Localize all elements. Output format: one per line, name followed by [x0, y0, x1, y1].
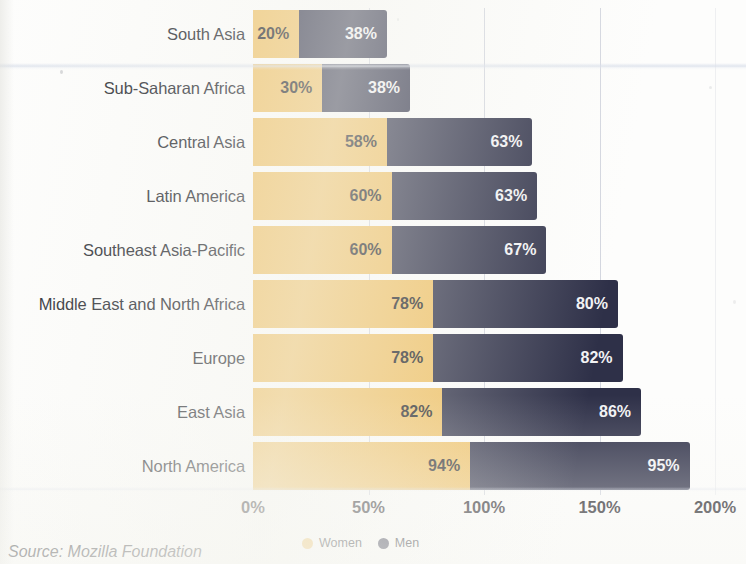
bar-value-label: 58% [345, 133, 387, 151]
bar-stack: 58%63% [253, 118, 532, 166]
bar-segment-men: 95% [470, 442, 689, 490]
legend-item-women[interactable]: Women [302, 536, 362, 550]
bar-stack: 60%63% [253, 172, 537, 220]
chart-row: Central Asia58%63% [0, 118, 746, 166]
x-axis-tick-label: 0% [241, 498, 265, 517]
category-label: Southeast Asia-Pacific [0, 226, 245, 274]
bar-segment-women: 78% [253, 334, 433, 382]
bar-value-label: 80% [576, 295, 618, 313]
bar-segment-women: 82% [253, 388, 442, 436]
bar-segment-men: 63% [392, 172, 538, 220]
bar-segment-women: 60% [253, 172, 392, 220]
chart-row: Middle East and North Africa78%80% [0, 280, 746, 328]
bar-segment-men: 67% [392, 226, 547, 274]
bar-value-label: 63% [490, 133, 532, 151]
category-label: Europe [0, 334, 245, 382]
bar-value-label: 60% [350, 187, 392, 205]
bar-value-label: 63% [495, 187, 537, 205]
bar-value-label: 82% [581, 349, 623, 367]
bar-value-label: 38% [368, 79, 410, 97]
bar-segment-women: 60% [253, 226, 392, 274]
category-label: Latin America [0, 172, 245, 220]
x-axis-tick-label: 200% [694, 498, 736, 517]
x-axis-tick-label: 50% [352, 498, 385, 517]
x-axis-tick-label: 100% [463, 498, 505, 517]
chart-row: Sub-Saharan Africa30%38% [0, 64, 746, 112]
bar-value-label: 38% [345, 25, 387, 43]
bar-value-label: 30% [280, 79, 322, 97]
bar-value-label: 78% [391, 295, 433, 313]
category-label: Sub-Saharan Africa [0, 64, 245, 112]
chart-row: South Asia20%38% [0, 10, 746, 58]
legend-item-men[interactable]: Men [378, 536, 419, 550]
chart-row: Latin America60%63% [0, 172, 746, 220]
bar-stack: 78%80% [253, 280, 618, 328]
chart-row: Europe78%82% [0, 334, 746, 382]
bar-value-label: 20% [257, 25, 299, 43]
source-note: Source: Mozilla Foundation [8, 543, 202, 561]
bar-value-label: 82% [400, 403, 442, 421]
plot-area: South Asia20%38%Sub-Saharan Africa30%38%… [0, 0, 746, 500]
bar-segment-men: 38% [322, 64, 410, 112]
category-label: Central Asia [0, 118, 245, 166]
legend-label: Women [319, 536, 362, 550]
bar-value-label: 78% [391, 349, 433, 367]
bar-segment-men: 82% [433, 334, 622, 382]
bar-stack: 30%38% [253, 64, 410, 112]
category-label: Middle East and North Africa [0, 280, 245, 328]
x-axis: 0%50%100%150%200% [0, 498, 746, 526]
bar-segment-men: 63% [387, 118, 533, 166]
bar-segment-men: 38% [299, 10, 387, 58]
chart-row: Southeast Asia-Pacific60%67% [0, 226, 746, 274]
bar-stack: 20%38% [253, 10, 387, 58]
bar-stack: 82%86% [253, 388, 641, 436]
bar-segment-men: 86% [442, 388, 641, 436]
category-label: South Asia [0, 10, 245, 58]
bar-value-label: 86% [599, 403, 641, 421]
chart-row: East Asia82%86% [0, 388, 746, 436]
bar-segment-women: 30% [253, 64, 322, 112]
legend-swatch-icon [302, 538, 313, 549]
bar-stack: 94%95% [253, 442, 690, 490]
category-label: North America [0, 442, 245, 490]
chart-row: North America94%95% [0, 442, 746, 490]
bar-segment-women: 78% [253, 280, 433, 328]
bar-value-label: 67% [504, 241, 546, 259]
bar-segment-women: 94% [253, 442, 470, 490]
chart-legend: WomenMen [302, 536, 419, 550]
x-axis-tick-label: 150% [578, 498, 620, 517]
stacked-bar-chart-figure: South Asia20%38%Sub-Saharan Africa30%38%… [0, 0, 746, 564]
bar-value-label: 94% [428, 457, 470, 475]
bar-segment-women: 58% [253, 118, 387, 166]
legend-swatch-icon [378, 538, 389, 549]
bar-value-label: 60% [350, 241, 392, 259]
bar-segment-women: 20% [253, 10, 299, 58]
bar-value-label: 95% [648, 457, 690, 475]
bar-segment-men: 80% [433, 280, 618, 328]
legend-label: Men [395, 536, 419, 550]
bar-stack: 78%82% [253, 334, 623, 382]
category-label: East Asia [0, 388, 245, 436]
bar-stack: 60%67% [253, 226, 546, 274]
